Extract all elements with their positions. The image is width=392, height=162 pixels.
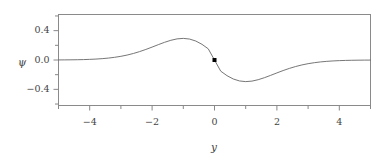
x-tick-label: 2	[274, 116, 280, 127]
x-axis-title: y	[210, 141, 218, 153]
x-tick-label: 0	[211, 116, 217, 127]
figure-container: −0.40.00.4 −4−2024 ψ y	[0, 0, 392, 162]
origin-point	[213, 58, 217, 62]
y-tick-label: 0.4	[34, 24, 49, 35]
line-chart: −0.40.00.4 −4−2024 ψ y	[0, 0, 392, 162]
x-tick-label: 4	[336, 116, 342, 127]
x-tick-label: −4	[83, 116, 97, 127]
data-markers	[213, 58, 217, 62]
y-axis-title: ψ	[18, 56, 27, 68]
y-tick-label: 0.0	[34, 54, 49, 65]
y-tick-label: −0.4	[26, 83, 49, 94]
x-tick-label: −2	[145, 116, 159, 127]
